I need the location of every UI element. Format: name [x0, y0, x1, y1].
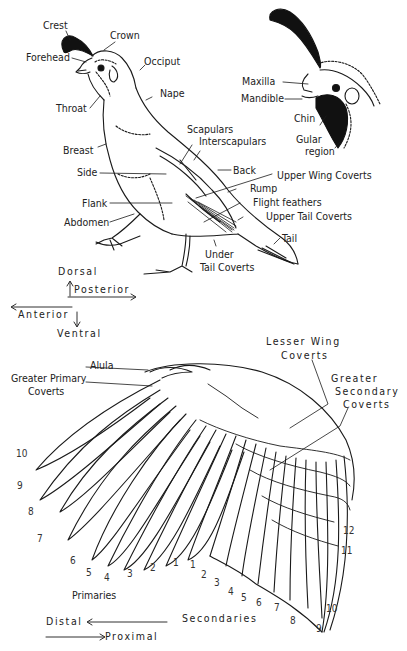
label-interscapulars: Interscapulars [199, 136, 266, 147]
secondary-number: 7 [274, 603, 280, 613]
secondary-number: 4 [228, 587, 234, 597]
secondary-number: 12 [343, 526, 354, 536]
secondary-number: 1 [190, 560, 196, 570]
label-under-tail-coverts-1: Under [205, 249, 234, 260]
label-scapulars: Scapulars [187, 124, 233, 135]
primaries [36, 380, 244, 570]
label-anterior: Anterior [18, 309, 69, 320]
primary-number: 1 [173, 558, 179, 568]
leg-rear [144, 234, 192, 274]
label-nape: Nape [160, 88, 185, 99]
label-distal: Distal [46, 616, 83, 627]
primary-number: 2 [150, 563, 156, 573]
label-primaries: Primaries [72, 590, 116, 601]
primary-number: 7 [37, 534, 43, 544]
label-greater-primary-coverts-2: Coverts [28, 386, 64, 397]
primary-number: 5 [86, 568, 92, 578]
label-maxilla: Maxilla [242, 76, 275, 87]
secondary-number: 5 [241, 593, 247, 603]
label-chin: Chin [294, 113, 315, 124]
label-side: Side [77, 167, 97, 178]
head-eye-icon [333, 85, 340, 92]
primary-number: 4 [104, 573, 110, 583]
label-proximal: Proximal [105, 631, 158, 642]
quail-body-drawing [62, 36, 298, 274]
label-breast: Breast [63, 145, 93, 156]
label-forehead: Forehead [26, 52, 70, 63]
label-flight-feathers: Flight feathers [253, 197, 322, 208]
quail-anatomy-diagram: Crest Crown Forehead Occiput Throat Nape… [0, 0, 407, 651]
primary-number: 8 [28, 507, 34, 517]
label-posterior: Posterior [74, 284, 130, 295]
label-lesser-wing-coverts-1: Lesser Wing [266, 336, 341, 347]
label-gular-2: region [305, 146, 335, 157]
label-tail: Tail [282, 233, 297, 244]
secondary-number: 3 [214, 578, 220, 588]
secondary-number: 10 [326, 604, 337, 614]
label-greater-secondary-coverts-3: Coverts [343, 399, 390, 410]
label-flank: Flank [82, 198, 107, 209]
label-greater-secondary-coverts-1: Greater [331, 373, 378, 384]
label-occiput: Occiput [144, 56, 180, 67]
label-crest: Crest [43, 20, 68, 31]
secondary-number: 2 [201, 570, 207, 580]
label-abdomen: Abdomen [64, 217, 109, 228]
secondary-number: 9 [316, 624, 322, 634]
flight-feathers-hatch [186, 196, 236, 232]
eye-icon [98, 65, 104, 71]
label-dorsal: Dorsal [58, 266, 98, 277]
label-ventral: Ventral [57, 328, 102, 339]
label-back: Back [233, 165, 256, 176]
label-upper-wing-coverts: Upper Wing Coverts [277, 170, 372, 181]
primary-number: 10 [16, 449, 27, 459]
label-lesser-wing-coverts-2: Coverts [281, 350, 328, 361]
primary-number: 9 [17, 481, 23, 491]
label-secondaries: Secondaries [182, 613, 257, 624]
label-greater-primary-coverts-1: Greater Primary [11, 373, 86, 384]
head-crest-plume-icon [270, 9, 321, 68]
label-crown: Crown [110, 30, 140, 41]
primary-number: 3 [127, 569, 133, 579]
label-upper-tail-coverts: Upper Tail Coverts [266, 211, 352, 222]
label-gular-1: Gular [296, 134, 322, 145]
secondary-number: 11 [341, 546, 352, 556]
label-throat: Throat [56, 103, 87, 114]
secondary-number: 8 [290, 616, 296, 626]
label-greater-secondary-coverts-2: Secondary [335, 386, 399, 397]
quail-head-drawing [270, 9, 380, 148]
secondary-number: 6 [256, 598, 262, 608]
label-mandible: Mandible [241, 93, 284, 104]
primary-number: 6 [70, 556, 76, 566]
label-rump: Rump [250, 183, 277, 194]
label-alula: Alula [90, 360, 114, 371]
label-under-tail-coverts-2: Tail Coverts [200, 262, 254, 273]
